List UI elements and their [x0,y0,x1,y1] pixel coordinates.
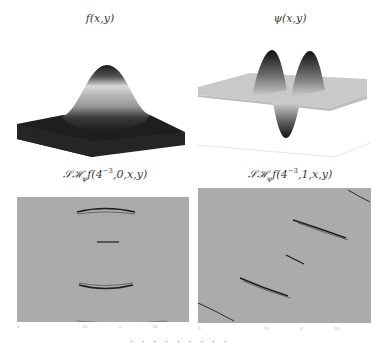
svg-text:·: · [100,156,101,160]
shearlet-coeff-shear0-image [17,197,189,322]
cropped-caption-fragment: · · · · · · · · · [130,337,387,345]
svg-text:·: · [70,154,71,158]
panel-title-f: f(x,y) [60,12,140,25]
svg-text:·: · [155,146,156,150]
panel-title-psi: ψ(x,y) [250,12,330,25]
panel-title-sh-shear0: 𝒮ℋψf(4−3,0,x,y) [55,167,155,183]
wavelet-surface-plot [195,35,387,165]
svg-text:·: · [20,142,21,146]
panel-title-sh-shear1: 𝒮ℋψf(4−3,1,x,y) [240,167,340,183]
svg-text:·: · [130,150,131,154]
shearlet-coeff-shear1-image [198,188,371,323]
svg-text:·: · [50,150,51,154]
svg-text:·: · [88,158,89,162]
x-axis-ticks-shear0: 010010 [17,324,189,329]
svg-text:·: · [35,146,36,150]
svg-text:·: · [175,142,176,146]
gaussian-surface-plot: ··· ··· ··· [0,35,195,165]
x-axis-ticks-shear1: 010010 [198,326,371,331]
